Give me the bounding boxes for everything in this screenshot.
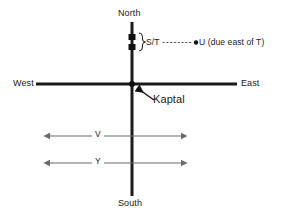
label-point-u: U (due east of T) bbox=[199, 38, 264, 47]
kaptal-pointer-arrow bbox=[137, 88, 154, 100]
marker-square-s-icon bbox=[129, 34, 136, 40]
diagram-canvas bbox=[0, 0, 281, 219]
label-north: North bbox=[118, 9, 141, 18]
label-span-v: V bbox=[93, 130, 103, 139]
label-st: S/T bbox=[146, 38, 160, 47]
label-kaptal: Kaptal bbox=[153, 94, 185, 105]
label-south: South bbox=[118, 199, 142, 208]
label-span-y: Y bbox=[93, 157, 103, 166]
marker-square-t-icon bbox=[129, 44, 136, 50]
label-west: West bbox=[13, 79, 34, 88]
st-brace-icon bbox=[139, 33, 146, 51]
point-u-dot-icon bbox=[194, 40, 198, 44]
compass-diagram: North South West East S/T U (due east of… bbox=[0, 0, 281, 219]
origin-dot-icon bbox=[129, 81, 135, 87]
label-east: East bbox=[241, 79, 259, 88]
